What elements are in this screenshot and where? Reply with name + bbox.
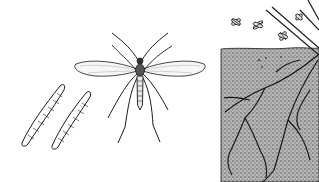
adult-gnat [75, 33, 205, 143]
small-gnats [231, 13, 304, 41]
illustration [0, 0, 319, 182]
wing-right [143, 61, 205, 76]
wing-left [75, 61, 137, 76]
soil-cross-section [221, 0, 319, 182]
